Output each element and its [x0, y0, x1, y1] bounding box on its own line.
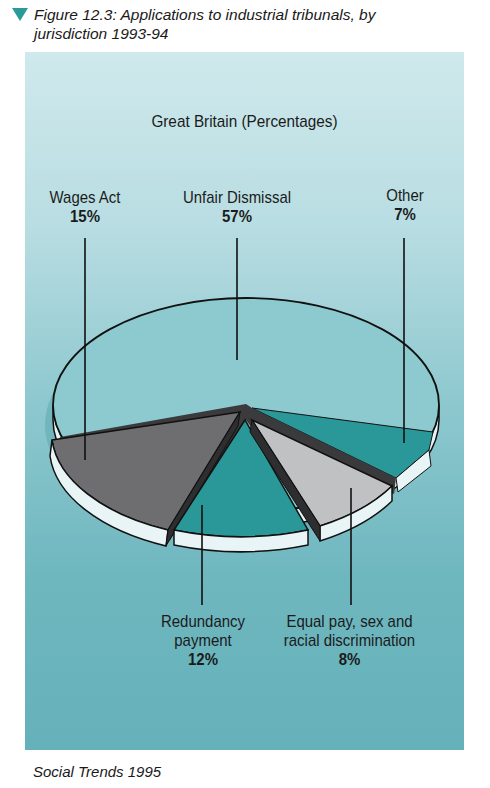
label-redundancy: Redundancy payment 12%: [150, 612, 256, 669]
figure-title-line2: jurisdiction 1993-94: [12, 25, 168, 42]
figure-title-line1: Figure 12.3: Applications to industrial …: [34, 6, 375, 23]
source-caption: Social Trends 1995: [33, 763, 161, 780]
down-triangle-icon: [12, 8, 28, 21]
label-wages-act: Wages Act 15%: [39, 188, 131, 226]
figure-title: Figure 12.3: Applications to industrial …: [12, 5, 472, 43]
label-unfair-dismissal: Unfair Dismissal 57%: [165, 188, 309, 226]
label-equal-pay: Equal pay, sex and racial discrimination…: [268, 612, 431, 669]
chart-panel: Great Britain (Percentages) Wages: [25, 52, 464, 750]
label-other: Other 7%: [370, 186, 440, 224]
